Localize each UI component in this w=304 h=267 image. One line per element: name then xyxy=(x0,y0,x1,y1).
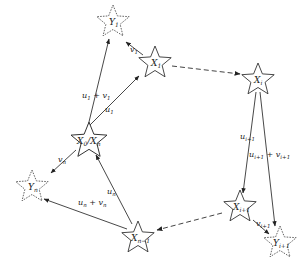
edge-label-un: un xyxy=(107,187,116,197)
edge-xi-to-xi1 xyxy=(243,92,256,193)
nodes: Y1 X1 Xi Xi+1 Yi+1 Xn−1 X0/Xn xyxy=(16,5,296,257)
cycle-graph-diagram: Xi dashed --> Xn-1 dashed --> Y1 X1 xyxy=(0,0,304,267)
node-xi1: Xi+1 xyxy=(224,190,256,221)
edge-label-vi1: vi+1 xyxy=(256,219,270,229)
edge-label-vn: vn xyxy=(58,155,67,165)
edge-label-u1: u1 xyxy=(105,105,114,115)
edge-x1-to-xi-dashed xyxy=(172,66,240,74)
edge-xi1-to-xn1-dashed xyxy=(157,213,222,230)
edge-label-un-plus-vn: un + vn xyxy=(78,198,107,208)
edge-label-v1: v1 xyxy=(130,45,138,55)
node-x0-xn: X0/Xn xyxy=(71,122,107,156)
node-xi: Xi xyxy=(242,63,274,94)
edge-label-ui1-plus-vi1: ui+1 + vi+1 xyxy=(249,150,290,160)
edge-label-u1-plus-v1: u1 + v1 xyxy=(82,91,110,101)
edge-label-ui1: ui+1 xyxy=(240,132,255,142)
edge-xn1-to-x0 xyxy=(96,155,132,224)
node-yi1: Yi+1 xyxy=(264,226,296,257)
node-yn: Yn xyxy=(16,170,48,201)
node-x1: X1 xyxy=(139,46,171,77)
node-xn1: Xn−1 xyxy=(122,221,154,252)
node-y1: Y1 xyxy=(97,5,129,36)
edge-x0-to-x1 xyxy=(89,76,139,126)
